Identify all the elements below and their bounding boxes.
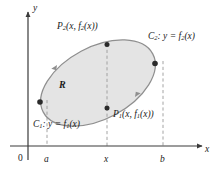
label-y-axis: y	[33, 4, 37, 14]
figure-container: P2(x, f2(x)) C2: y = f2(x) P1(x, f1(x)) …	[0, 0, 220, 173]
point-P2	[105, 42, 110, 47]
label-tick-b: b	[160, 155, 165, 165]
label-curve-c2: C2: y = f2(x)	[148, 32, 195, 42]
label-curve-c1: C1: y = f1(x)	[33, 120, 80, 130]
label-origin: 0	[18, 154, 23, 164]
label-point-p1: P1(x, f1(x))	[113, 110, 154, 120]
figure-graphic	[0, 0, 220, 173]
point-P1	[105, 106, 110, 111]
point-left-endpoint	[37, 99, 43, 105]
label-tick-x: x	[104, 155, 108, 165]
label-x-axis: x	[205, 145, 209, 155]
label-region-r: R	[59, 80, 66, 90]
point-right-endpoint	[152, 61, 158, 67]
label-point-p2: P2(x, f2(x))	[57, 22, 98, 32]
label-tick-a: a	[44, 155, 49, 165]
